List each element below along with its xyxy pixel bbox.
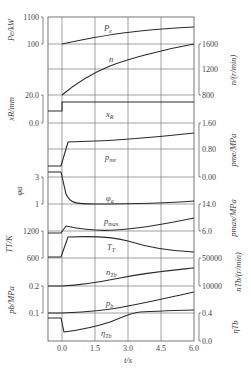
svg-text:pme: pme — [104, 152, 117, 163]
svg-text:20.0: 20.0 — [25, 91, 39, 100]
svg-text:xR: xR — [105, 109, 114, 120]
x-axis-title: t/s — [124, 355, 133, 365]
svg-text:φa: φa — [14, 187, 24, 196]
svg-text:0.0: 0.0 — [202, 337, 212, 346]
svg-text:0.0: 0.0 — [29, 119, 39, 128]
svg-text:50000: 50000 — [202, 254, 222, 263]
svg-text:600: 600 — [27, 254, 39, 263]
svg-text:1.60: 1.60 — [202, 119, 216, 128]
x-axis: 0.0 1.5 3.0 4.5 6.0 t/s — [57, 344, 199, 365]
svg-text:0.0: 0.0 — [57, 344, 67, 353]
left-axes: 1100 100 Pe/kW 20.0 0.0 xR/mm 3 1 φa 120… — [4, 13, 43, 318]
curve-pme — [48, 133, 194, 166]
svg-text:pb: pb — [105, 298, 113, 309]
curve-xR — [48, 102, 194, 111]
svg-text:800: 800 — [202, 91, 214, 100]
plot-frame — [48, 17, 194, 341]
curve-nTb — [48, 268, 194, 286]
curve-labels: Pe n xR pme φa pmax TT nTb pb ηTb — [101, 23, 119, 339]
svg-text:n/(r/min): n/(r/min) — [228, 54, 238, 85]
svg-text:TT: TT — [107, 242, 116, 253]
svg-text:1200: 1200 — [202, 65, 218, 74]
svg-text:nTb: nTb — [106, 267, 117, 278]
line-chart: Pe n xR pme φa pmax TT nTb pb ηTb 1100 1… — [0, 0, 251, 371]
svg-text:Pe/kW: Pe/kW — [6, 18, 16, 42]
svg-text:0.4: 0.4 — [202, 309, 212, 318]
right-axes: 1600 1200 800 n/(r/min) 1.60 0.80 0.00 p… — [199, 40, 243, 346]
svg-text:xR/mm: xR/mm — [6, 97, 16, 122]
svg-text:0.00: 0.00 — [202, 173, 216, 182]
horizontal-grid — [48, 44, 194, 313]
svg-text:100: 100 — [27, 40, 39, 49]
svg-text:1200: 1200 — [23, 227, 39, 236]
svg-text:6.0: 6.0 — [202, 227, 212, 236]
svg-text:Pe: Pe — [103, 23, 112, 34]
svg-text:1.5: 1.5 — [90, 344, 100, 353]
svg-text:pb/MPa: pb/MPa — [6, 286, 16, 314]
svg-text:pmax/MPa: pmax/MPa — [228, 199, 238, 237]
svg-text:10000: 10000 — [202, 282, 222, 291]
svg-text:0.2: 0.2 — [29, 282, 39, 291]
svg-text:φa: φa — [106, 193, 114, 204]
svg-text:4.5: 4.5 — [156, 344, 166, 353]
svg-text:pmax: pmax — [103, 216, 119, 227]
svg-text:ηTb: ηTb — [101, 328, 112, 339]
svg-text:6.0: 6.0 — [189, 344, 199, 353]
svg-text:1: 1 — [35, 200, 39, 209]
svg-text:n: n — [109, 54, 113, 64]
svg-text:3: 3 — [35, 173, 39, 182]
curve-pb — [48, 292, 194, 313]
svg-text:1100: 1100 — [23, 13, 39, 22]
svg-text:0.80: 0.80 — [202, 145, 216, 154]
svg-text:TT/K: TT/K — [4, 234, 14, 253]
svg-text:1600: 1600 — [202, 40, 218, 49]
svg-text:14.0: 14.0 — [202, 200, 216, 209]
curve-TT — [48, 236, 194, 257]
svg-text:3.0: 3.0 — [123, 344, 133, 353]
svg-text:nTb/(r/min): nTb/(r/min) — [233, 252, 243, 292]
svg-text:pme/MPa: pme/MPa — [228, 133, 238, 167]
svg-text:0.1: 0.1 — [29, 309, 39, 318]
svg-text:ηTb: ηTb — [230, 320, 240, 333]
